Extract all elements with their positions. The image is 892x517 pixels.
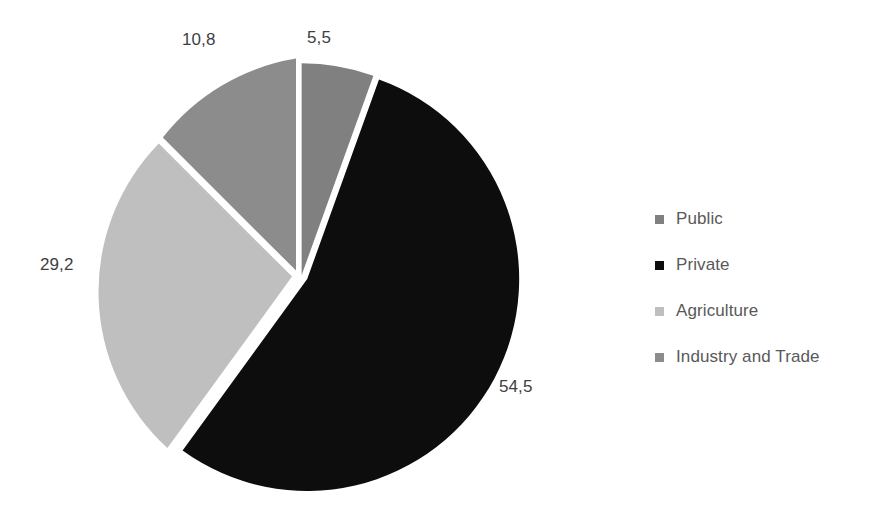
pie-graphic (0, 0, 620, 517)
data-label-agriculture: 29,2 (40, 255, 74, 275)
legend-marker-icon-private (655, 261, 664, 270)
legend-label-private: Private (676, 255, 730, 275)
legend-label-industry-and-trade: Industry and Trade (676, 347, 820, 367)
legend-label-public: Public (676, 209, 723, 229)
legend-item-agriculture[interactable]: Agriculture (655, 288, 880, 334)
data-label-public: 5,5 (307, 28, 331, 48)
data-label-industry-and-trade: 10,8 (182, 30, 216, 50)
legend-item-industry-and-trade[interactable]: Industry and Trade (655, 334, 880, 380)
legend-marker-icon-agriculture (655, 307, 664, 316)
legend-marker-icon-industry-and-trade (655, 353, 664, 362)
legend-item-public[interactable]: Public (655, 196, 880, 242)
legend-item-private[interactable]: Private (655, 242, 880, 288)
chart-legend: Public Private Agriculture Industry and … (655, 196, 880, 380)
pie-plot-area: 5,5 10,8 29,2 54,5 (0, 0, 620, 517)
legend-marker-icon-public (655, 215, 664, 224)
data-label-private: 54,5 (499, 377, 533, 397)
legend-label-agriculture: Agriculture (676, 301, 758, 321)
pie-chart: 5,5 10,8 29,2 54,5 Public Private Agricu… (0, 0, 892, 517)
